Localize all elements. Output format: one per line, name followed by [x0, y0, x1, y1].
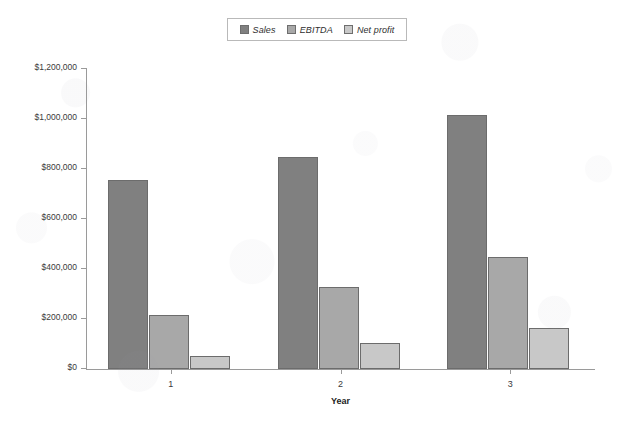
bar-ebitda	[149, 315, 189, 369]
bar-group: 2	[256, 69, 426, 369]
bar-net-profit	[190, 356, 230, 369]
chart-legend: Sales EBITDA Net profit	[227, 18, 407, 41]
bar-ebitda	[319, 287, 359, 370]
x-axis-tick	[510, 370, 511, 374]
legend-swatch-net-profit	[344, 25, 353, 34]
legend-swatch-ebitda	[287, 25, 296, 34]
bar-net-profit	[360, 343, 400, 369]
bar-net-profit	[529, 328, 569, 369]
bar-ebitda	[488, 257, 528, 370]
x-axis-tick-label: 2	[256, 379, 426, 389]
legend-item-ebitda: EBITDA	[287, 25, 333, 35]
y-axis-tick-label: $0	[68, 362, 77, 372]
y-axis-tick-label: $200,000	[42, 312, 77, 322]
x-axis-tick	[341, 370, 342, 374]
bar-group: 3	[425, 69, 595, 369]
y-axis-tick-label: $600,000	[42, 212, 77, 222]
legend-item-net-profit: Net profit	[344, 25, 395, 35]
y-axis-tick-label: $400,000	[42, 262, 77, 272]
legend-label-net-profit: Net profit	[357, 25, 395, 35]
bar-sales	[447, 115, 487, 369]
bar-group: 1	[86, 69, 256, 369]
x-axis-tick-label: 3	[425, 379, 595, 389]
bar-sales	[278, 157, 318, 370]
x-axis-tick	[171, 370, 172, 374]
legend-label-sales: Sales	[253, 25, 276, 35]
bar-sales	[108, 180, 148, 369]
legend-label-ebitda: EBITDA	[300, 25, 333, 35]
x-axis-title: Year	[86, 396, 595, 406]
bar-chart: Sales EBITDA Net profit $0$200,000$400,0…	[0, 0, 630, 422]
y-axis-tick-label: $1,000,000	[34, 112, 77, 122]
y-axis-tick-label: $1,200,000	[34, 62, 77, 72]
legend-item-sales: Sales	[240, 25, 276, 35]
y-axis-tick-label: $800,000	[42, 162, 77, 172]
x-axis-tick-label: 1	[86, 379, 256, 389]
plot-area: $0$200,000$400,000$600,000$800,000$1,000…	[86, 69, 595, 369]
bar-groups: 123	[86, 69, 595, 369]
legend-swatch-sales	[240, 25, 249, 34]
